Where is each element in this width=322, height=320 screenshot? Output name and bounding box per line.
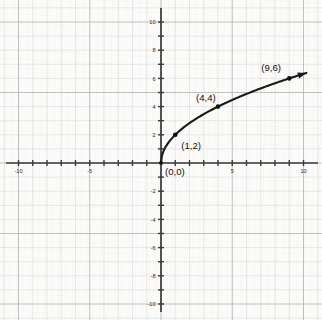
graph-canvas: -10-5510108642-2-4-6-8-10 (0,0)(1,2)(4,4… xyxy=(0,0,322,320)
x-tick-label: -5 xyxy=(87,168,92,174)
data-point-dot xyxy=(159,161,163,165)
y-tick-label: -2 xyxy=(151,188,156,194)
x-tick-label: -10 xyxy=(14,168,22,174)
data-point-dot xyxy=(173,133,178,138)
y-tick-label: 8 xyxy=(152,47,155,53)
y-tick-label: 4 xyxy=(152,104,155,110)
data-point-dot xyxy=(216,104,221,109)
x-tick-label: 10 xyxy=(300,168,306,174)
data-point-dot xyxy=(287,76,292,81)
x-tick-label: 5 xyxy=(231,168,234,174)
data-point-label: (0,0) xyxy=(165,166,185,177)
y-tick-label: -6 xyxy=(151,245,156,251)
y-tick-label: 6 xyxy=(152,76,155,82)
y-tick-label: -8 xyxy=(151,273,156,279)
y-tick-label: 10 xyxy=(149,19,155,25)
y-tick-label: -4 xyxy=(151,217,156,223)
y-tick-label: 2 xyxy=(152,132,155,138)
coordinate-graph: -10-5510108642-2-4-6-8-10 (0,0)(1,2)(4,4… xyxy=(0,0,322,320)
data-point-label: (4,4) xyxy=(196,92,216,103)
y-tick-label: -10 xyxy=(147,301,155,307)
data-point-label: (9,6) xyxy=(261,62,281,73)
data-point-label: (1,2) xyxy=(181,140,201,151)
